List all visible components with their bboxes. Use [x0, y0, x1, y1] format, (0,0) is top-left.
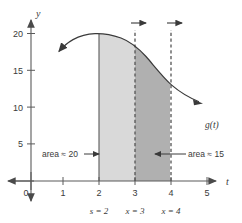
figure-svg: 20 15 10 5 0 1 2 3 4 5 y t [0, 0, 242, 223]
curve-end-arrowhead-icon [193, 100, 203, 106]
y-tick-label-5: 5 [18, 139, 23, 149]
x-tick-label-4: 4 [168, 188, 173, 198]
x-axis-label: t [226, 176, 229, 187]
left-area-annotation-text: area ≈ 20 [42, 149, 78, 159]
y-tick-label-20: 20 [13, 29, 23, 39]
y-axis-label: y [35, 8, 41, 19]
marker-label-x3: x = 3 [124, 206, 145, 216]
x-tick-label-0: 0 [23, 188, 28, 198]
marker-label-x4: x = 4 [160, 206, 181, 216]
curve-g-left-branch [59, 34, 95, 52]
x-tick-label-5: 5 [204, 188, 209, 198]
marker-label-s: s = 2 [90, 206, 109, 216]
curve-label-gt: g(t) [205, 120, 219, 131]
x-tick-label-3: 3 [132, 188, 137, 198]
y-tick-label-10: 10 [13, 103, 23, 113]
x-tick-label-2: 2 [96, 188, 101, 198]
calculus-area-figure: 20 15 10 5 0 1 2 3 4 5 y t [0, 0, 242, 223]
right-area-annotation-text: area ≈ 15 [188, 149, 224, 159]
y-tick-label-15: 15 [13, 66, 23, 76]
x-tick-label-1: 1 [60, 188, 65, 198]
